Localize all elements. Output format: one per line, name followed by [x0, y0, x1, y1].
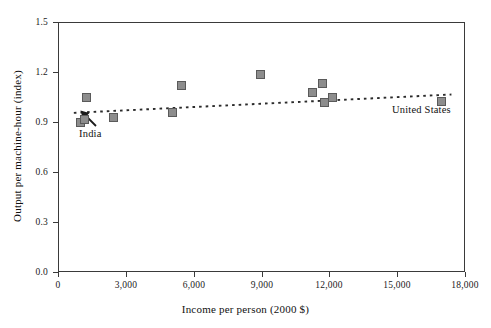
- x-tick-label-3000: 3,000: [96, 280, 156, 291]
- data-point-4: [168, 108, 177, 117]
- y-tick-label-0.9: 0.9: [8, 117, 48, 127]
- y-axis-title: Output per machine-hour (index): [11, 26, 23, 266]
- x-tick-mark-0: [58, 272, 59, 277]
- x-tick-label-15000: 15,000: [367, 280, 427, 291]
- x-tick-label-6000: 6,000: [164, 280, 224, 291]
- x-tick-label-0: 0: [28, 280, 88, 291]
- x-tick-mark-6000: [194, 272, 195, 277]
- data-point-10: [328, 93, 337, 102]
- x-tick-mark-3000: [126, 272, 127, 277]
- y-tick-label-1.2: 1.2: [8, 67, 48, 77]
- annotation-united-states: United States: [392, 104, 451, 115]
- data-point-1: [80, 115, 89, 124]
- data-point-8: [318, 79, 327, 88]
- x-tick-mark-9000: [262, 272, 263, 277]
- data-point-7: [308, 88, 317, 97]
- x-tick-label-18000: 18,000: [435, 280, 491, 291]
- y-tick-label-0.3: 0.3: [8, 217, 48, 227]
- data-point-2: [82, 93, 91, 102]
- x-tick-mark-18000: [465, 272, 466, 277]
- y-tick-label-1.5: 1.5: [8, 17, 48, 27]
- data-point-6: [256, 70, 265, 79]
- data-point-5: [177, 81, 186, 90]
- scatter-chart: Output per machine-hour (index) 1.5 1.2 …: [0, 0, 491, 328]
- plot-area: [58, 22, 465, 272]
- x-tick-label-12000: 12,000: [299, 280, 359, 291]
- annotation-india: India: [79, 128, 102, 139]
- x-tick-mark-15000: [397, 272, 398, 277]
- data-point-3: [109, 113, 118, 122]
- x-tick-mark-12000: [329, 272, 330, 277]
- x-tick-label-9000: 9,000: [232, 280, 292, 291]
- y-tick-label-0.6: 0.6: [8, 167, 48, 177]
- y-tick-label-0.0: 0.0: [8, 267, 48, 277]
- x-axis-title: Income per person (2000 $): [0, 303, 491, 315]
